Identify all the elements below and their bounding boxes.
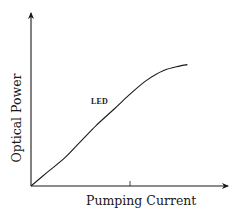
- chart-canvas: [0, 0, 240, 219]
- led-curve: [31, 65, 187, 186]
- x-axis-label: Pumping Current: [86, 193, 196, 208]
- y-axis-label: Optical Power: [9, 73, 24, 162]
- led-series-label: LED: [91, 97, 108, 106]
